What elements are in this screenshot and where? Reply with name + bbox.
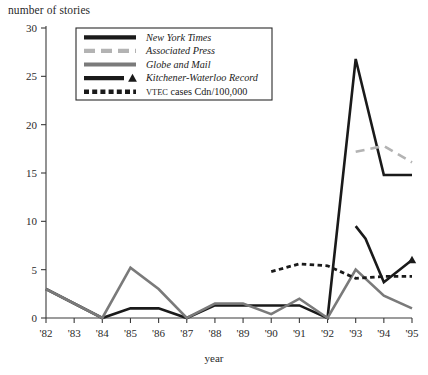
legend-label: Globe and Mail xyxy=(146,59,211,70)
x-tick-label: '86 xyxy=(152,327,165,339)
legend-label: Associated Press xyxy=(145,45,215,56)
series-line xyxy=(46,268,412,318)
x-tick-label: '94 xyxy=(377,327,390,339)
x-tick-label: '93 xyxy=(349,327,362,339)
y-tick-label: 20 xyxy=(26,119,38,131)
series-line xyxy=(356,146,412,162)
x-tick-label: '82 xyxy=(40,327,53,339)
y-tick-label: 0 xyxy=(32,312,38,324)
legend-label: VTEC cases Cdn/100,000 xyxy=(146,86,247,97)
legend-label: Kitchener-Waterloo Record xyxy=(145,72,259,83)
x-tick-label: '92 xyxy=(321,327,334,339)
x-tick-label: '95 xyxy=(406,327,419,339)
y-tick-label: 25 xyxy=(26,70,38,82)
y-tick-label: 15 xyxy=(26,167,38,179)
x-tick-label: '89 xyxy=(237,327,250,339)
x-tick-label: '87 xyxy=(180,327,193,339)
chart-legend: New York TimesAssociated PressGlobe and … xyxy=(76,28,272,100)
chart-figure: number of stories year 051015202530'82'8… xyxy=(0,0,428,375)
x-tick-label: '85 xyxy=(124,327,137,339)
line-chart-plot: 051015202530'82'83'84'85'86'87'88'89'90'… xyxy=(0,0,428,375)
y-tick-label: 30 xyxy=(26,22,38,34)
x-tick-label: '91 xyxy=(293,327,306,339)
legend-label: New York Times xyxy=(145,32,211,43)
x-tick-label: '88 xyxy=(208,327,221,339)
x-tick-label: '84 xyxy=(96,327,109,339)
y-tick-label: 10 xyxy=(26,215,38,227)
x-tick-label: '83 xyxy=(68,327,81,339)
series-line xyxy=(356,226,412,282)
x-tick-label: '90 xyxy=(265,327,278,339)
y-tick-label: 5 xyxy=(32,264,38,276)
series-marker-triangle xyxy=(408,256,416,264)
